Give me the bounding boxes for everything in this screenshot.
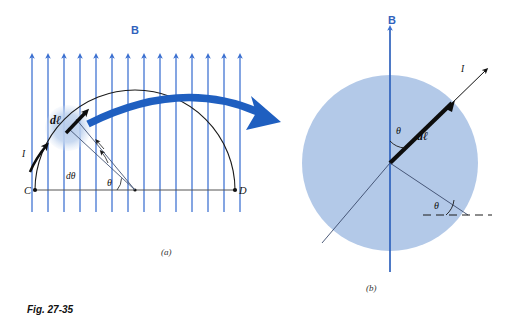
panel-a-caption: (a) xyxy=(161,247,172,257)
panel-a-point-d-label: D xyxy=(238,185,247,196)
panel-b-field-label: B xyxy=(388,14,396,26)
figure-page: B dℓ I θ dθ C D (a) B I xyxy=(0,0,509,318)
panel-b-caption: (b) xyxy=(366,283,377,293)
panel-a-element-label: dℓ xyxy=(50,113,61,127)
physics-figure: B dℓ I θ dθ C D (a) B I xyxy=(0,0,509,318)
panel-b-angle-upper-label: θ xyxy=(396,125,401,136)
panel-a-angle-label: θ xyxy=(107,177,112,188)
radius-line-theta xyxy=(68,128,135,190)
panel-a-current-label: I xyxy=(21,149,26,159)
panel-a-dtheta-label: dθ xyxy=(66,171,76,181)
panel-b-element-label: dℓ xyxy=(417,129,428,143)
radius-line-theta-plus-dtheta xyxy=(76,119,135,190)
magnify-connector-arrow xyxy=(88,96,281,130)
panel-b-angle-lower-label: θ xyxy=(434,200,439,211)
point-D-dot xyxy=(233,188,237,192)
panel-b-current-label: I xyxy=(460,64,465,74)
angle-arc-theta-a xyxy=(117,178,122,190)
point-C-dot xyxy=(33,188,37,192)
figure-caption: Fig. 27-35 xyxy=(27,304,74,315)
panel-a-field-label: B xyxy=(131,24,139,36)
panel-a-point-c-label: C xyxy=(24,185,32,196)
